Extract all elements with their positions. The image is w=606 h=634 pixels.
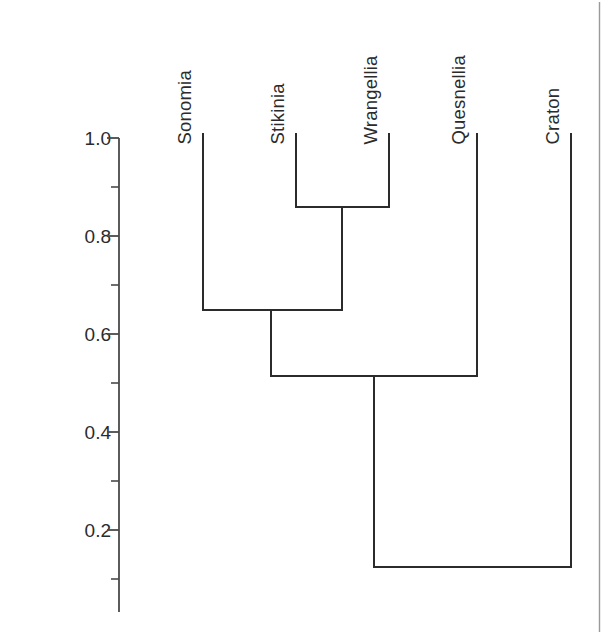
y-axis-minor-ticks bbox=[111, 187, 119, 579]
dendrogram-figure: Similarity 1.0 0.8 0.6 0.4 0.2 Sonomia S… bbox=[0, 0, 606, 634]
dendrogram-canvas bbox=[0, 0, 606, 634]
y-axis-major-ticks bbox=[107, 138, 119, 530]
dendrogram-tree bbox=[202, 133, 572, 567]
